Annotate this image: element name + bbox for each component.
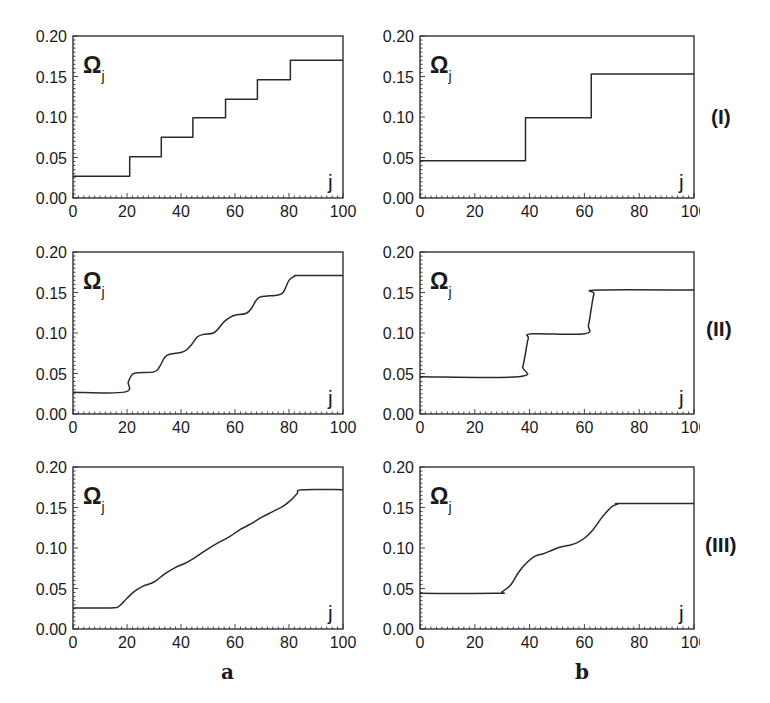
- column-label-b: b: [575, 660, 589, 684]
- x-tick-label: 80: [630, 634, 648, 651]
- omega-series-line: [73, 489, 343, 608]
- y-tick-label: 0.05: [383, 366, 414, 383]
- chart-svg: 0204060801000.000.050.100.150.20Ωjj: [370, 216, 700, 446]
- panel-III-a: 0204060801000.000.050.100.150.20Ωjj: [0, 431, 370, 661]
- panel-II-a: 0204060801000.000.050.100.150.20Ωjj: [0, 216, 370, 446]
- panel-I-a: 0204060801000.000.050.100.150.20Ωjj: [0, 0, 370, 230]
- y-tick-label: 0.20: [36, 244, 67, 261]
- chart-svg: 0204060801000.000.050.100.150.20Ωjj: [370, 431, 700, 661]
- y-tick-label: 0.10: [36, 325, 67, 342]
- y-tick-label: 0.00: [383, 621, 414, 638]
- y-tick-label: 0.10: [383, 540, 414, 557]
- chart-svg: 0204060801000.000.050.100.150.20Ωjj: [0, 0, 370, 230]
- y-tick-label: 0.05: [383, 581, 414, 598]
- x-tick-label: 20: [466, 634, 484, 651]
- y-axis-label: Ωj: [430, 483, 452, 515]
- y-tick-label: 0.05: [36, 366, 67, 383]
- plot-frame: [73, 252, 343, 414]
- y-tick-label: 0.05: [36, 581, 67, 598]
- x-axis-label: j: [678, 386, 684, 409]
- x-tick-label: 100: [330, 634, 357, 651]
- y-axis-label: Ωj: [83, 268, 105, 300]
- panel-II-b: 0204060801000.000.050.100.150.20Ωjj: [370, 216, 700, 446]
- x-tick-label: 100: [681, 634, 700, 651]
- x-tick-label: 60: [226, 634, 244, 651]
- y-axis-label: Ωj: [83, 483, 105, 515]
- y-tick-label: 0.10: [383, 325, 414, 342]
- chart-svg: 0204060801000.000.050.100.150.20Ωjj: [0, 431, 370, 661]
- y-tick-label: 0.15: [36, 500, 67, 517]
- y-tick-label: 0.10: [383, 109, 414, 126]
- chart-svg: 0204060801000.000.050.100.150.20Ωjj: [370, 0, 700, 230]
- y-tick-label: 0.15: [383, 500, 414, 517]
- x-tick-label: 0: [69, 634, 78, 651]
- y-tick-label: 0.15: [383, 285, 414, 302]
- y-tick-label: 0.00: [36, 406, 67, 423]
- x-axis-label: j: [678, 601, 684, 624]
- x-axis-label: j: [327, 386, 333, 409]
- y-tick-label: 0.20: [383, 459, 414, 476]
- y-tick-label: 0.20: [36, 28, 67, 45]
- chart-svg: 0204060801000.000.050.100.150.20Ωjj: [0, 216, 370, 446]
- y-tick-label: 0.15: [36, 285, 67, 302]
- y-tick-label: 0.20: [36, 459, 67, 476]
- row-label-I: (I): [711, 105, 731, 129]
- omega-series-line: [420, 74, 694, 161]
- figure: 0204060801000.000.050.100.150.20Ωjj 0204…: [0, 0, 770, 703]
- x-tick-label: 40: [172, 634, 190, 651]
- axis-ticks: [420, 252, 694, 414]
- axis-ticks: [73, 252, 343, 414]
- omega-series-line: [73, 60, 343, 176]
- y-axis-label: Ωj: [430, 268, 452, 300]
- x-axis-label: j: [327, 170, 333, 193]
- y-tick-label: 0.15: [36, 69, 67, 86]
- x-tick-label: 20: [118, 634, 136, 651]
- omega-series-line: [420, 503, 694, 593]
- column-label-a: a: [221, 660, 234, 684]
- y-tick-label: 0.00: [383, 190, 414, 207]
- y-tick-label: 0.20: [383, 28, 414, 45]
- y-tick-label: 0.10: [36, 109, 67, 126]
- omega-series-line: [73, 275, 343, 393]
- y-tick-label: 0.10: [36, 540, 67, 557]
- row-label-III: (III): [705, 533, 737, 557]
- y-tick-label: 0.05: [36, 150, 67, 167]
- y-tick-label: 0.00: [36, 621, 67, 638]
- y-axis-label: Ωj: [430, 52, 452, 84]
- plot-frame: [420, 36, 694, 198]
- x-tick-label: 40: [521, 634, 539, 651]
- y-tick-label: 0.00: [36, 190, 67, 207]
- y-tick-label: 0.00: [383, 406, 414, 423]
- omega-series-line: [420, 290, 694, 378]
- y-axis-label: Ωj: [83, 52, 105, 84]
- panel-III-b: 0204060801000.000.050.100.150.20Ωjj: [370, 431, 700, 661]
- panel-I-b: 0204060801000.000.050.100.150.20Ωjj: [370, 0, 700, 230]
- x-tick-label: 0: [416, 634, 425, 651]
- plot-frame: [420, 252, 694, 414]
- x-tick-label: 80: [280, 634, 298, 651]
- row-label-II: (II): [706, 317, 732, 341]
- y-tick-label: 0.05: [383, 150, 414, 167]
- y-tick-label: 0.20: [383, 244, 414, 261]
- y-tick-label: 0.15: [383, 69, 414, 86]
- axis-ticks: [420, 36, 694, 198]
- x-axis-label: j: [327, 601, 333, 624]
- x-tick-label: 60: [576, 634, 594, 651]
- x-axis-label: j: [678, 170, 684, 193]
